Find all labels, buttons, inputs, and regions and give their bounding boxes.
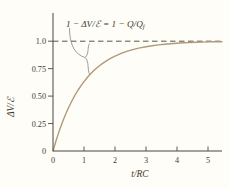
annotation-label: 1 − ΔV/ℰ = 1 − Q/Qf (66, 19, 146, 30)
x-tick-label: 4 (175, 156, 179, 165)
x-tick-label: 5 (206, 156, 210, 165)
y-axis-title: ΔV/ℰ (6, 96, 16, 118)
chart-svg: 012345 00.250.500.751.0 1 − ΔV/ℰ = 1 − Q… (0, 0, 229, 188)
y-tick-label: 1.0 (36, 37, 46, 46)
annotation-leader-line (70, 28, 86, 58)
annotation-subscript: f (143, 23, 146, 30)
annotation-brace (85, 44, 89, 75)
y-tick-label: 0.50 (32, 92, 46, 101)
rc-charging-figure: 012345 00.250.500.751.0 1 − ΔV/ℰ = 1 − Q… (0, 0, 229, 188)
x-tick-label: 2 (113, 156, 117, 165)
x-axis-title: t/RC (131, 169, 149, 179)
x-tick-label: 0 (51, 156, 55, 165)
annotation-main: 1 − ΔV/ℰ = 1 − Q/Q (66, 19, 143, 29)
charging-curve (53, 42, 222, 151)
x-tick-label: 3 (144, 156, 148, 165)
y-ticks: 00.250.500.751.0 (32, 37, 53, 156)
y-tick-label: 0 (42, 147, 46, 156)
x-ticks: 012345 (51, 147, 210, 165)
y-tick-label: 0.25 (32, 120, 46, 129)
y-tick-label: 0.75 (32, 65, 46, 74)
x-tick-label: 1 (82, 156, 86, 165)
